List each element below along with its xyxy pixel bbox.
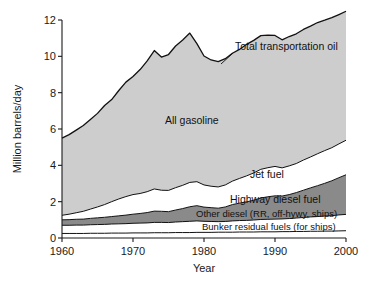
chart-figure: 12108642019601970198019902000YearMillion… — [0, 0, 370, 283]
y-tick-label-6: 6 — [50, 123, 56, 135]
annotation-bunker-residual: Bunker residual fuels (for ships) — [202, 221, 336, 232]
x-tick-label-1990: 1990 — [263, 245, 287, 257]
y-tick-label-4: 4 — [50, 159, 56, 171]
y-tick-label-8: 8 — [50, 87, 56, 99]
x-tick-label-1970: 1970 — [121, 245, 145, 257]
x-tick-label-1960: 1960 — [50, 245, 74, 257]
y-tick-label-12: 12 — [44, 14, 56, 26]
y-tick-label-2: 2 — [50, 196, 56, 208]
annotation-highway-diesel-fuel: Highway diesel fuel — [230, 193, 320, 205]
x-axis-title: Year — [193, 262, 216, 274]
x-tick-label-1980: 1980 — [192, 245, 216, 257]
x-tick-label-2000: 2000 — [334, 245, 358, 257]
annotation-jet-fuel: Jet fuel — [250, 168, 284, 180]
stacked-area-chart: 12108642019601970198019902000YearMillion… — [0, 0, 370, 283]
y-axis-title: Million barrels/day — [11, 84, 23, 173]
y-tick-marks — [58, 20, 62, 238]
annotation-total-transportation-oil: Total transportation oil — [235, 40, 338, 52]
annotation-other-diesel: Other diesel (RR, off-hywy, ships) — [196, 208, 337, 219]
annotation-all-gasoline: All gasoline — [165, 114, 219, 126]
y-tick-label-0: 0 — [50, 232, 56, 244]
y-tick-label-10: 10 — [44, 50, 56, 62]
x-tick-marks — [62, 238, 346, 242]
